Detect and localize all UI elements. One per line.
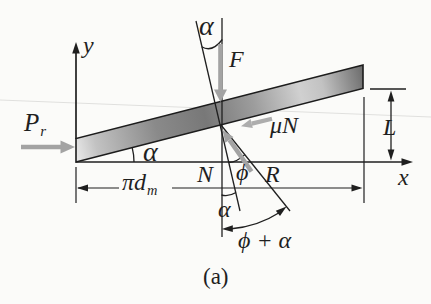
resultant-label-R: R bbox=[265, 162, 280, 186]
effort-arrow-Pr bbox=[21, 141, 75, 154]
circumference-label-main: πd bbox=[122, 169, 146, 195]
x-axis-label: x bbox=[398, 165, 409, 189]
friction-arrow-muN bbox=[241, 119, 272, 128]
figure-thread-force-diagram: y x F Pr μN N ϕ R α α α L πdm ϕ + α (a) bbox=[0, 0, 431, 304]
friction-label-muN: μN bbox=[270, 113, 298, 137]
lead-dimension-label-L: L bbox=[383, 115, 396, 139]
alpha-base-arc bbox=[132, 148, 134, 162]
lead-angle-label-small: α bbox=[218, 197, 231, 221]
diagram-canvas bbox=[0, 0, 431, 304]
effort-label-sub: r bbox=[40, 123, 46, 139]
load-label-F: F bbox=[229, 47, 244, 71]
circumference-label-sub: m bbox=[147, 182, 157, 198]
load-arrow-F bbox=[214, 44, 227, 102]
circumference-label-pidm: πdm bbox=[122, 170, 157, 197]
y-axis-label: y bbox=[83, 33, 94, 57]
lead-angle-label-base: α bbox=[143, 138, 158, 166]
total-angle-label-phi-plus-alpha: ϕ + α bbox=[238, 228, 291, 252]
effort-label-main: P bbox=[24, 109, 39, 136]
friction-angle-label-phi: ϕ bbox=[236, 160, 248, 184]
normal-label-N: N bbox=[197, 162, 213, 186]
effort-label-Pr: Pr bbox=[24, 110, 46, 139]
figure-caption: (a) bbox=[203, 265, 229, 288]
y-axis bbox=[72, 42, 80, 139]
lead-angle-label-top: α bbox=[199, 12, 214, 40]
